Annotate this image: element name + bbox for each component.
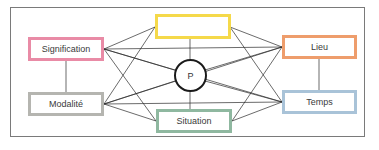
center-node-label: P (187, 71, 193, 81)
node-signification: Signification (28, 37, 104, 61)
node-temps: Temps (282, 90, 357, 114)
edge-temps-center (205, 81, 282, 102)
edge-signification-center (104, 49, 175, 70)
node-signification-label: Signification (42, 44, 91, 54)
node-modalite-label: Modalité (49, 99, 83, 109)
edge-lieu-center (205, 47, 282, 70)
edge-temps-situation (232, 102, 282, 121)
node-lieu: Lieu (282, 35, 357, 59)
edge-lieu-top (230, 27, 282, 47)
edge-modalite-situation (104, 104, 156, 121)
edge-signification-situation (104, 49, 156, 121)
edge-modalite-center (104, 81, 175, 104)
node-temps-label: Temps (306, 97, 333, 107)
center-node-p: P (174, 59, 207, 92)
node-top-empty (155, 14, 231, 39)
node-modalite: Modalité (28, 92, 104, 116)
node-situation-label: Situation (176, 116, 211, 126)
edge-modalite-temps (104, 102, 282, 104)
node-lieu-label: Lieu (311, 42, 328, 52)
edge-modalite-top (104, 27, 155, 104)
edge-temps-top (230, 27, 282, 102)
edge-signification-lieu (104, 47, 282, 49)
edge-lieu-situation (232, 47, 282, 121)
node-situation: Situation (156, 109, 232, 133)
diagram: Signification Modalité Situation Lieu Te… (0, 0, 379, 150)
